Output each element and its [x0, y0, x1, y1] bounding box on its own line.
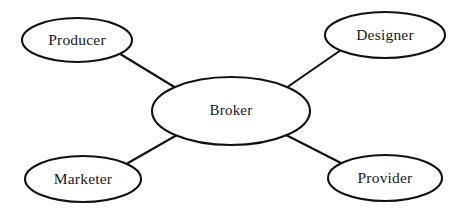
- node-provider[interactable]: Provider: [328, 155, 442, 201]
- diagram-canvas: Producer Designer Broker Marketer Provid…: [0, 0, 461, 215]
- node-producer[interactable]: Producer: [22, 18, 132, 62]
- edge-provider-broker: [286, 135, 341, 163]
- node-broker-label: Broker: [210, 102, 253, 118]
- node-producer-label: Producer: [48, 31, 106, 48]
- node-marketer-label: Marketer: [54, 170, 113, 187]
- node-provider-label: Provider: [358, 169, 414, 186]
- node-marketer[interactable]: Marketer: [25, 156, 141, 202]
- node-broker[interactable]: Broker: [152, 77, 310, 145]
- edge-marketer-broker: [128, 135, 177, 163]
- node-link-diagram: Producer Designer Broker Marketer Provid…: [0, 0, 461, 215]
- node-designer[interactable]: Designer: [325, 12, 445, 58]
- edge-producer-broker: [117, 52, 176, 88]
- node-designer-label: Designer: [356, 26, 414, 43]
- edge-designer-broker: [286, 50, 341, 88]
